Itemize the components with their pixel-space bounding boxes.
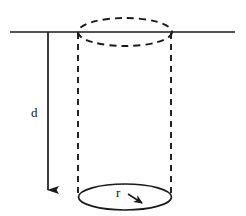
depth-label: d: [31, 105, 38, 120]
cylinder-bottom-ellipse: [79, 184, 172, 210]
diagram-canvas: d r: [0, 0, 246, 216]
cylinder-depth-diagram: d r: [0, 0, 246, 216]
radius-arrow: [128, 194, 142, 203]
radius-label: r: [116, 185, 121, 200]
